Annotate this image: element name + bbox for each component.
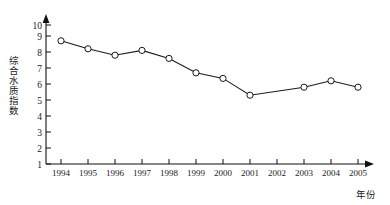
y-tick-label: 5 xyxy=(37,96,42,106)
x-tick-labels: 1994 1995 1996 1997 1998 1999 2000 2001 … xyxy=(52,168,368,178)
x-tick-label: 2003 xyxy=(295,168,314,178)
y-tick-label: 1 xyxy=(37,160,42,170)
line-chart: 1 2 3 4 5 6 7 8 9 10 199 xyxy=(0,0,390,205)
y-tick-label: 10 xyxy=(33,21,43,31)
y-tick-label: 4 xyxy=(37,112,42,122)
series-markers xyxy=(58,38,361,99)
data-point xyxy=(58,38,64,44)
y-tick-label: 9 xyxy=(37,32,42,42)
data-point xyxy=(112,52,118,58)
data-point xyxy=(85,46,91,52)
x-tick-label: 2004 xyxy=(322,168,341,178)
data-point xyxy=(139,47,145,53)
y-tick-label: 3 xyxy=(37,128,42,138)
data-point xyxy=(355,84,361,90)
x-axis-title: 年份 xyxy=(356,187,376,201)
x-tick-label: 1997 xyxy=(133,168,152,178)
x-tick-label: 1996 xyxy=(106,168,125,178)
y-tick-label: 2 xyxy=(37,144,42,154)
x-tick-label: 2001 xyxy=(241,168,259,178)
x-tick-marks xyxy=(61,159,358,164)
chart-canvas: 1 2 3 4 5 6 7 8 9 10 199 xyxy=(0,0,390,205)
y-tick-label: 6 xyxy=(37,80,42,90)
x-tick-label: 1995 xyxy=(79,168,98,178)
data-point xyxy=(328,78,334,84)
data-point xyxy=(220,75,226,81)
x-tick-label: 1998 xyxy=(160,168,179,178)
y-tick-label: 8 xyxy=(37,48,42,58)
y-tick-labels: 1 2 3 4 5 6 7 8 9 10 xyxy=(33,21,43,170)
x-axis-arrow xyxy=(365,161,374,168)
y-tick-marks xyxy=(46,25,51,164)
y-tick-label: 7 xyxy=(37,64,42,74)
x-tick-label: 1999 xyxy=(187,168,206,178)
data-point xyxy=(247,92,253,98)
x-tick-label: 2002 xyxy=(268,168,286,178)
x-tick-label: 2000 xyxy=(214,168,233,178)
x-tick-label: 1994 xyxy=(52,168,71,178)
series-line xyxy=(61,41,358,95)
y-axis-arrow xyxy=(43,14,50,23)
data-point xyxy=(301,84,307,90)
data-point xyxy=(166,55,172,61)
x-tick-label: 2005 xyxy=(349,168,368,178)
data-point xyxy=(193,70,199,76)
x-axis xyxy=(46,161,374,168)
